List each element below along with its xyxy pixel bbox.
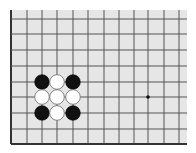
white-stone[interactable]	[50, 90, 65, 105]
stones	[35, 75, 81, 121]
white-stone[interactable]	[50, 75, 65, 90]
black-stone[interactable]	[66, 106, 81, 121]
white-stone[interactable]	[35, 90, 50, 105]
black-stone[interactable]	[66, 75, 81, 90]
black-stone[interactable]	[35, 75, 50, 90]
star-point	[146, 95, 150, 99]
black-stone[interactable]	[35, 106, 50, 121]
go-board[interactable]	[0, 0, 196, 153]
white-stone[interactable]	[66, 90, 81, 105]
star-points	[146, 95, 150, 99]
white-stone[interactable]	[50, 106, 65, 121]
